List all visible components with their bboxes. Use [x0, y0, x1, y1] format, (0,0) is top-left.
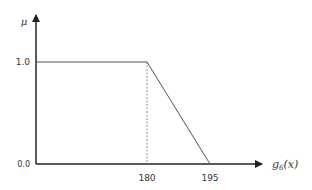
membership-function-chart: 1.0 0.0 180 195 μ g6(x): [0, 0, 312, 190]
x-tick-180: 180: [138, 173, 155, 183]
y-tick-1: 1.0: [16, 57, 31, 67]
y-axis-label: μ: [21, 16, 28, 27]
x-axis-label: g6(x): [272, 158, 298, 172]
y-tick-0: 0.0: [17, 160, 30, 169]
membership-line: [36, 62, 210, 164]
x-tick-195: 195: [201, 173, 218, 183]
